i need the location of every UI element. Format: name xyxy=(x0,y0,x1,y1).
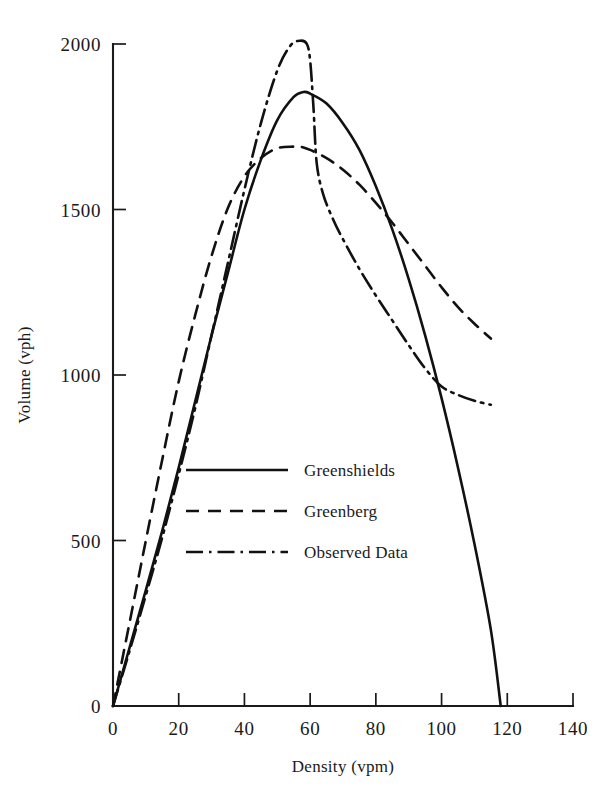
x-tick-label: 20 xyxy=(169,718,189,739)
x-tick-label: 60 xyxy=(300,718,320,739)
x-tick-label: 120 xyxy=(492,718,522,739)
y-tick-label: 0 xyxy=(91,696,101,717)
x-tick-label: 0 xyxy=(108,718,118,739)
x-axis-ticks: 020406080100120140 xyxy=(108,693,588,739)
legend-item-observed-data: Observed Data xyxy=(186,543,408,562)
traffic-flow-chart: 0500100015002000 020406080100120140 Gree… xyxy=(0,0,612,790)
y-tick-label: 1500 xyxy=(61,200,101,221)
chart-series-group xyxy=(113,41,501,706)
legend-item-greenshields: Greenshields xyxy=(186,461,395,480)
y-tick-label: 2000 xyxy=(61,34,101,55)
legend-item-greenberg: Greenberg xyxy=(186,502,378,521)
y-tick-label: 1000 xyxy=(61,365,101,386)
x-tick-label: 40 xyxy=(234,718,254,739)
chart-axes xyxy=(113,44,573,706)
legend-label: Greenshields xyxy=(304,461,395,480)
x-tick-label: 100 xyxy=(426,718,456,739)
chart-legend: GreenshieldsGreenbergObserved Data xyxy=(186,461,408,562)
legend-label: Greenberg xyxy=(304,502,378,521)
series-line-greenberg xyxy=(113,146,491,706)
y-tick-label: 500 xyxy=(71,531,101,552)
legend-label: Observed Data xyxy=(304,543,408,562)
chart-canvas: 0500100015002000 020406080100120140 Gree… xyxy=(0,0,612,790)
x-axis-title: Density (vpm) xyxy=(292,757,395,776)
series-line-greenshields xyxy=(113,92,501,706)
x-tick-label: 140 xyxy=(558,718,588,739)
y-axis-title: Volume (vph) xyxy=(15,326,34,423)
x-tick-label: 80 xyxy=(366,718,386,739)
y-axis-ticks: 0500100015002000 xyxy=(61,34,126,717)
